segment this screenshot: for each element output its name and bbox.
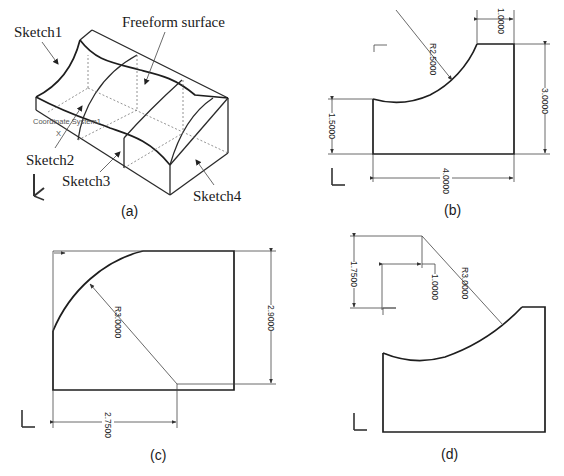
- label-sketch4: Sketch4: [193, 188, 242, 204]
- axis-triad-icon: [332, 168, 345, 185]
- dim-b-radius: R2.5000: [428, 43, 438, 75]
- caption-b: (b): [444, 202, 461, 218]
- dim-c-radius: R3.0000: [113, 306, 123, 338]
- axis-triad-icon: [354, 413, 367, 430]
- label-coordinate-system: Coordinate System1: [33, 117, 101, 126]
- dim-d-offset: 1.0000: [430, 274, 440, 300]
- label-sketch1: Sketch1: [14, 24, 62, 40]
- dim-b-top-width: 1.0000: [496, 8, 506, 34]
- panel-c: R3.0000 2.9000 2.7500 (c): [22, 251, 277, 463]
- dim-b-bottom-width: 4.0000: [441, 168, 451, 194]
- label-sketch2: Sketch2: [26, 152, 74, 168]
- panel-b: R2.5000 1.0000 3.0000 1.5000 4.0000 (b): [326, 8, 551, 218]
- dim-b-right-height: 3.0000: [540, 88, 550, 114]
- panel-a: Sketch1 Freeform surface Coordinate Syst…: [14, 14, 242, 219]
- dim-c-bottom-width: 2.7500: [103, 412, 113, 438]
- cad-sketch-figure: Sketch1 Freeform surface Coordinate Syst…: [0, 0, 564, 476]
- dim-d-radius: R3.0000: [460, 267, 470, 299]
- label-axis-x: X: [56, 129, 61, 138]
- dim-c-right-height: 2.9000: [266, 305, 276, 331]
- panel-d: R3.0000 1.7500 1.0000 (d): [348, 236, 545, 462]
- label-freeform-surface: Freeform surface: [122, 14, 225, 30]
- dim-b-left-height: 1.5000: [327, 113, 337, 139]
- dim-d-left-height: 1.7500: [349, 261, 359, 287]
- label-sketch3: Sketch3: [62, 173, 110, 189]
- caption-c: (c): [150, 447, 166, 463]
- axis-triad-icon: [22, 410, 35, 427]
- axis-triad-icon: [34, 174, 44, 200]
- caption-a: (a): [121, 203, 138, 219]
- caption-d: (d): [441, 446, 458, 462]
